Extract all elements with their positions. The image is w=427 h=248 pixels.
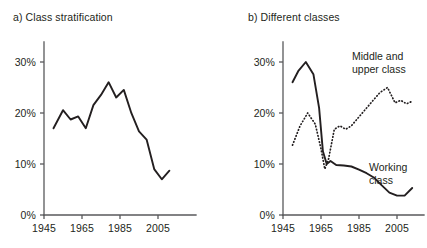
panel-a-ytick-20: 20%: [8, 107, 36, 119]
series-label-working-class: Working class: [369, 161, 407, 186]
series-label-middle-upper-class-line1: Middle and: [352, 50, 406, 63]
panel-a-xtick-1985: 1985: [100, 222, 140, 234]
panel-b-xtick-2005: 2005: [377, 222, 417, 234]
series-label-middle-upper-class: Middle and upper class: [352, 50, 406, 75]
panel-a-xtick-2005: 2005: [138, 222, 178, 234]
panel-a-plot: [0, 0, 427, 248]
panel-a-y-ticks: [40, 62, 44, 215]
panel-b-xtick-1985: 1985: [339, 222, 379, 234]
panel-a-xtick-1965: 1965: [62, 222, 102, 234]
panel-b-y-ticks: [279, 62, 283, 215]
panel-a-ytick-0: 0%: [8, 209, 36, 221]
panel-a-ytick-10: 10%: [8, 158, 36, 170]
series-label-working-class-line2: class: [369, 174, 407, 187]
series-label-middle-upper-class-line2: upper class: [352, 63, 406, 76]
panel-b-xtick-1965: 1965: [301, 222, 341, 234]
panel-b-ytick-0: 0%: [247, 209, 275, 221]
panel-b-series-middle-upper-class: [293, 88, 413, 170]
panel-b-xtick-1945: 1945: [263, 222, 303, 234]
panel-a-xtick-1945: 1945: [24, 222, 64, 234]
panel-b-plot: [0, 0, 427, 248]
figure-root: a) Class stratification 30%: [0, 0, 427, 248]
panel-a-ytick-30: 30%: [8, 56, 36, 68]
panel-a-title: a) Class stratification: [13, 11, 113, 23]
panel-b-title: b) Different classes: [248, 11, 340, 23]
panel-b-ytick-10: 10%: [247, 158, 275, 170]
panel-b-ytick-30: 30%: [247, 56, 275, 68]
panel-b-ytick-20: 20%: [247, 107, 275, 119]
series-label-working-class-line1: Working: [369, 161, 407, 174]
panel-b-x-ticks: [283, 215, 397, 219]
panel-a-x-ticks: [44, 215, 158, 219]
panel-a-series-class-stratification: [54, 82, 170, 179]
